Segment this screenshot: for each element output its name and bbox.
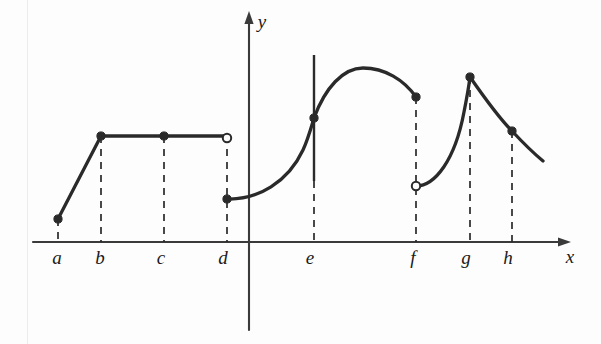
tick-labels-group: abcdefgh	[52, 247, 513, 268]
filled-point-e	[310, 114, 318, 122]
filled-point-g	[466, 73, 474, 81]
rising-segment-a-to-b	[58, 136, 101, 219]
filled-point-b	[97, 132, 105, 140]
tick-label-f: f	[410, 247, 418, 268]
droplines-group	[58, 77, 512, 242]
filled-point-h	[508, 127, 516, 135]
curve-f-to-g	[416, 77, 470, 186]
filled-point-d	[223, 195, 231, 203]
tick-label-c: c	[157, 247, 166, 268]
tick-label-h: h	[503, 247, 513, 268]
open-point-d	[223, 134, 231, 142]
tick-label-b: b	[95, 247, 105, 268]
tick-label-g: g	[461, 247, 471, 268]
filled-point-f	[412, 93, 420, 101]
y-axis-arrowhead	[244, 11, 253, 24]
tick-label-e: e	[306, 247, 314, 268]
y-axis-label: y	[256, 11, 267, 32]
tick-label-d: d	[218, 247, 228, 268]
points-group	[54, 73, 516, 223]
open-point-f	[412, 182, 420, 190]
curve-g-to-end	[470, 77, 543, 161]
figure-root: abcdefgh x y	[0, 0, 601, 344]
axes-group	[33, 11, 571, 330]
curve-d-to-e	[227, 118, 314, 199]
arch-e-to-f	[314, 68, 416, 118]
function-graph: abcdefgh x y	[0, 0, 601, 344]
x-axis-label: x	[565, 246, 575, 267]
filled-point-c	[160, 132, 168, 140]
filled-point-a	[54, 215, 62, 223]
tick-label-a: a	[52, 247, 62, 268]
